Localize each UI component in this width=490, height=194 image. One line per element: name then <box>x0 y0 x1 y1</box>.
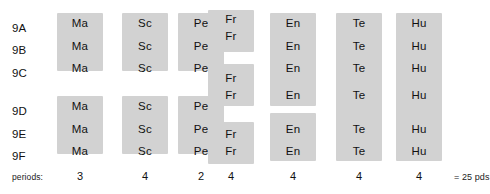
subject-cell-en: En <box>270 63 316 74</box>
subject-cell-en: En <box>270 90 316 101</box>
periods-label: periods: <box>12 173 43 182</box>
subject-cell-ma: Ma <box>57 101 103 112</box>
subject-cell-fr: Fr <box>208 73 254 84</box>
periods-count-sc: 4 <box>122 171 168 182</box>
subject-cell-en: En <box>270 18 316 29</box>
row-label-9d: 9D <box>12 106 46 117</box>
subject-cell-hu: Hu <box>396 124 442 135</box>
periods-count-en: 4 <box>270 171 316 182</box>
subject-cell-te: Te <box>336 146 382 157</box>
row-label-9e: 9E <box>12 129 46 140</box>
subject-cell-hu: Hu <box>396 63 442 74</box>
periods-count-ma: 3 <box>57 171 103 182</box>
subject-cell-hu: Hu <box>396 18 442 29</box>
row-label-9c: 9C <box>12 68 46 79</box>
subject-cell-ma: Ma <box>57 18 103 29</box>
periods-count-hu: 4 <box>396 171 442 182</box>
subject-cell-en: En <box>270 41 316 52</box>
subject-cell-hu: Hu <box>396 146 442 157</box>
subject-cell-te: Te <box>336 63 382 74</box>
subject-cell-fr: Fr <box>208 14 254 25</box>
subject-cell-te: Te <box>336 124 382 135</box>
subject-cell-sc: Sc <box>122 101 168 112</box>
periods-count-te: 4 <box>336 171 382 182</box>
subject-cell-sc: Sc <box>122 146 168 157</box>
subject-cell-en: En <box>270 146 316 157</box>
subject-cell-sc: Sc <box>122 63 168 74</box>
subject-cell-te: Te <box>336 90 382 101</box>
row-label-9f: 9F <box>12 151 46 162</box>
subject-cell-fr: Fr <box>208 129 254 140</box>
row-label-9a: 9A <box>12 23 46 34</box>
subject-cell-hu: Hu <box>396 90 442 101</box>
subject-cell-en: En <box>270 124 316 135</box>
subject-cell-sc: Sc <box>122 18 168 29</box>
subject-cell-sc: Sc <box>122 124 168 135</box>
subject-cell-ma: Ma <box>57 124 103 135</box>
periods-count-fr: 4 <box>208 171 254 182</box>
subject-cell-te: Te <box>336 41 382 52</box>
periods-total: = 25 pds <box>454 172 490 182</box>
row-label-9b: 9B <box>12 45 46 56</box>
subject-cell-sc: Sc <box>122 41 168 52</box>
subject-cell-te: Te <box>336 18 382 29</box>
subject-cell-hu: Hu <box>396 41 442 52</box>
subject-cell-fr: Fr <box>208 31 254 42</box>
subject-cell-ma: Ma <box>57 146 103 157</box>
subject-cell-ma: Ma <box>57 63 103 74</box>
subject-cell-ma: Ma <box>57 41 103 52</box>
subject-block-hu[interactable] <box>396 13 442 161</box>
subject-cell-fr: Fr <box>208 90 254 101</box>
subject-block-te[interactable] <box>336 13 382 161</box>
subject-cell-fr: Fr <box>208 146 254 157</box>
